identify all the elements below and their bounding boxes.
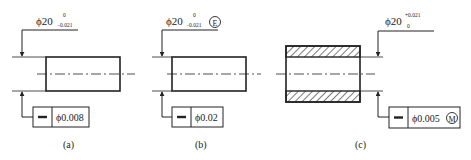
fcf-tolerance: ϕ0.02 <box>195 112 218 123</box>
dimension-leader <box>162 30 218 56</box>
figure-c: ϕ20 +0.021 0 ϕ0.005 M (c) <box>276 12 460 151</box>
dimension-lower-deviation: 0 <box>407 23 410 29</box>
fcf-leader <box>162 92 172 117</box>
dimension-leader <box>378 31 434 56</box>
dimension-nominal: ϕ20 <box>36 15 53 27</box>
figure-b: ϕ20 0 −0.021 E ϕ0.02 (b) <box>152 12 261 151</box>
fcf-leader <box>378 92 389 117</box>
section-hatch-bottom <box>286 91 360 102</box>
dimension-upper-deviation: 0 <box>63 12 66 18</box>
figure-caption: (c) <box>355 139 366 151</box>
dimension-lower-deviation: −0.021 <box>186 22 202 28</box>
fcf-tolerance: ϕ0.005 <box>412 113 440 124</box>
tolerance-drawings: ϕ20 0 −0.021 ϕ0.008 (a) ϕ20 0 −0.021 E <box>0 0 471 160</box>
dimension-lower-deviation: −0.021 <box>57 22 73 28</box>
dimension-leader <box>22 30 78 56</box>
svg-text:M: M <box>448 115 455 124</box>
dimension-nominal: ϕ20 <box>385 15 402 27</box>
section-hatch-top <box>286 46 360 57</box>
figure-caption: (b) <box>195 139 207 151</box>
dimension-nominal: ϕ20 <box>166 15 183 27</box>
fcf-tolerance: ϕ0.008 <box>56 112 84 123</box>
figure-a: ϕ20 0 −0.021 ϕ0.008 (a) <box>12 12 135 151</box>
fcf-leader <box>22 92 33 117</box>
dimension-upper-deviation: +0.021 <box>405 12 421 18</box>
svg-text:E: E <box>213 19 218 28</box>
dimension-upper-deviation: 0 <box>193 12 196 18</box>
figure-caption: (a) <box>63 139 74 151</box>
